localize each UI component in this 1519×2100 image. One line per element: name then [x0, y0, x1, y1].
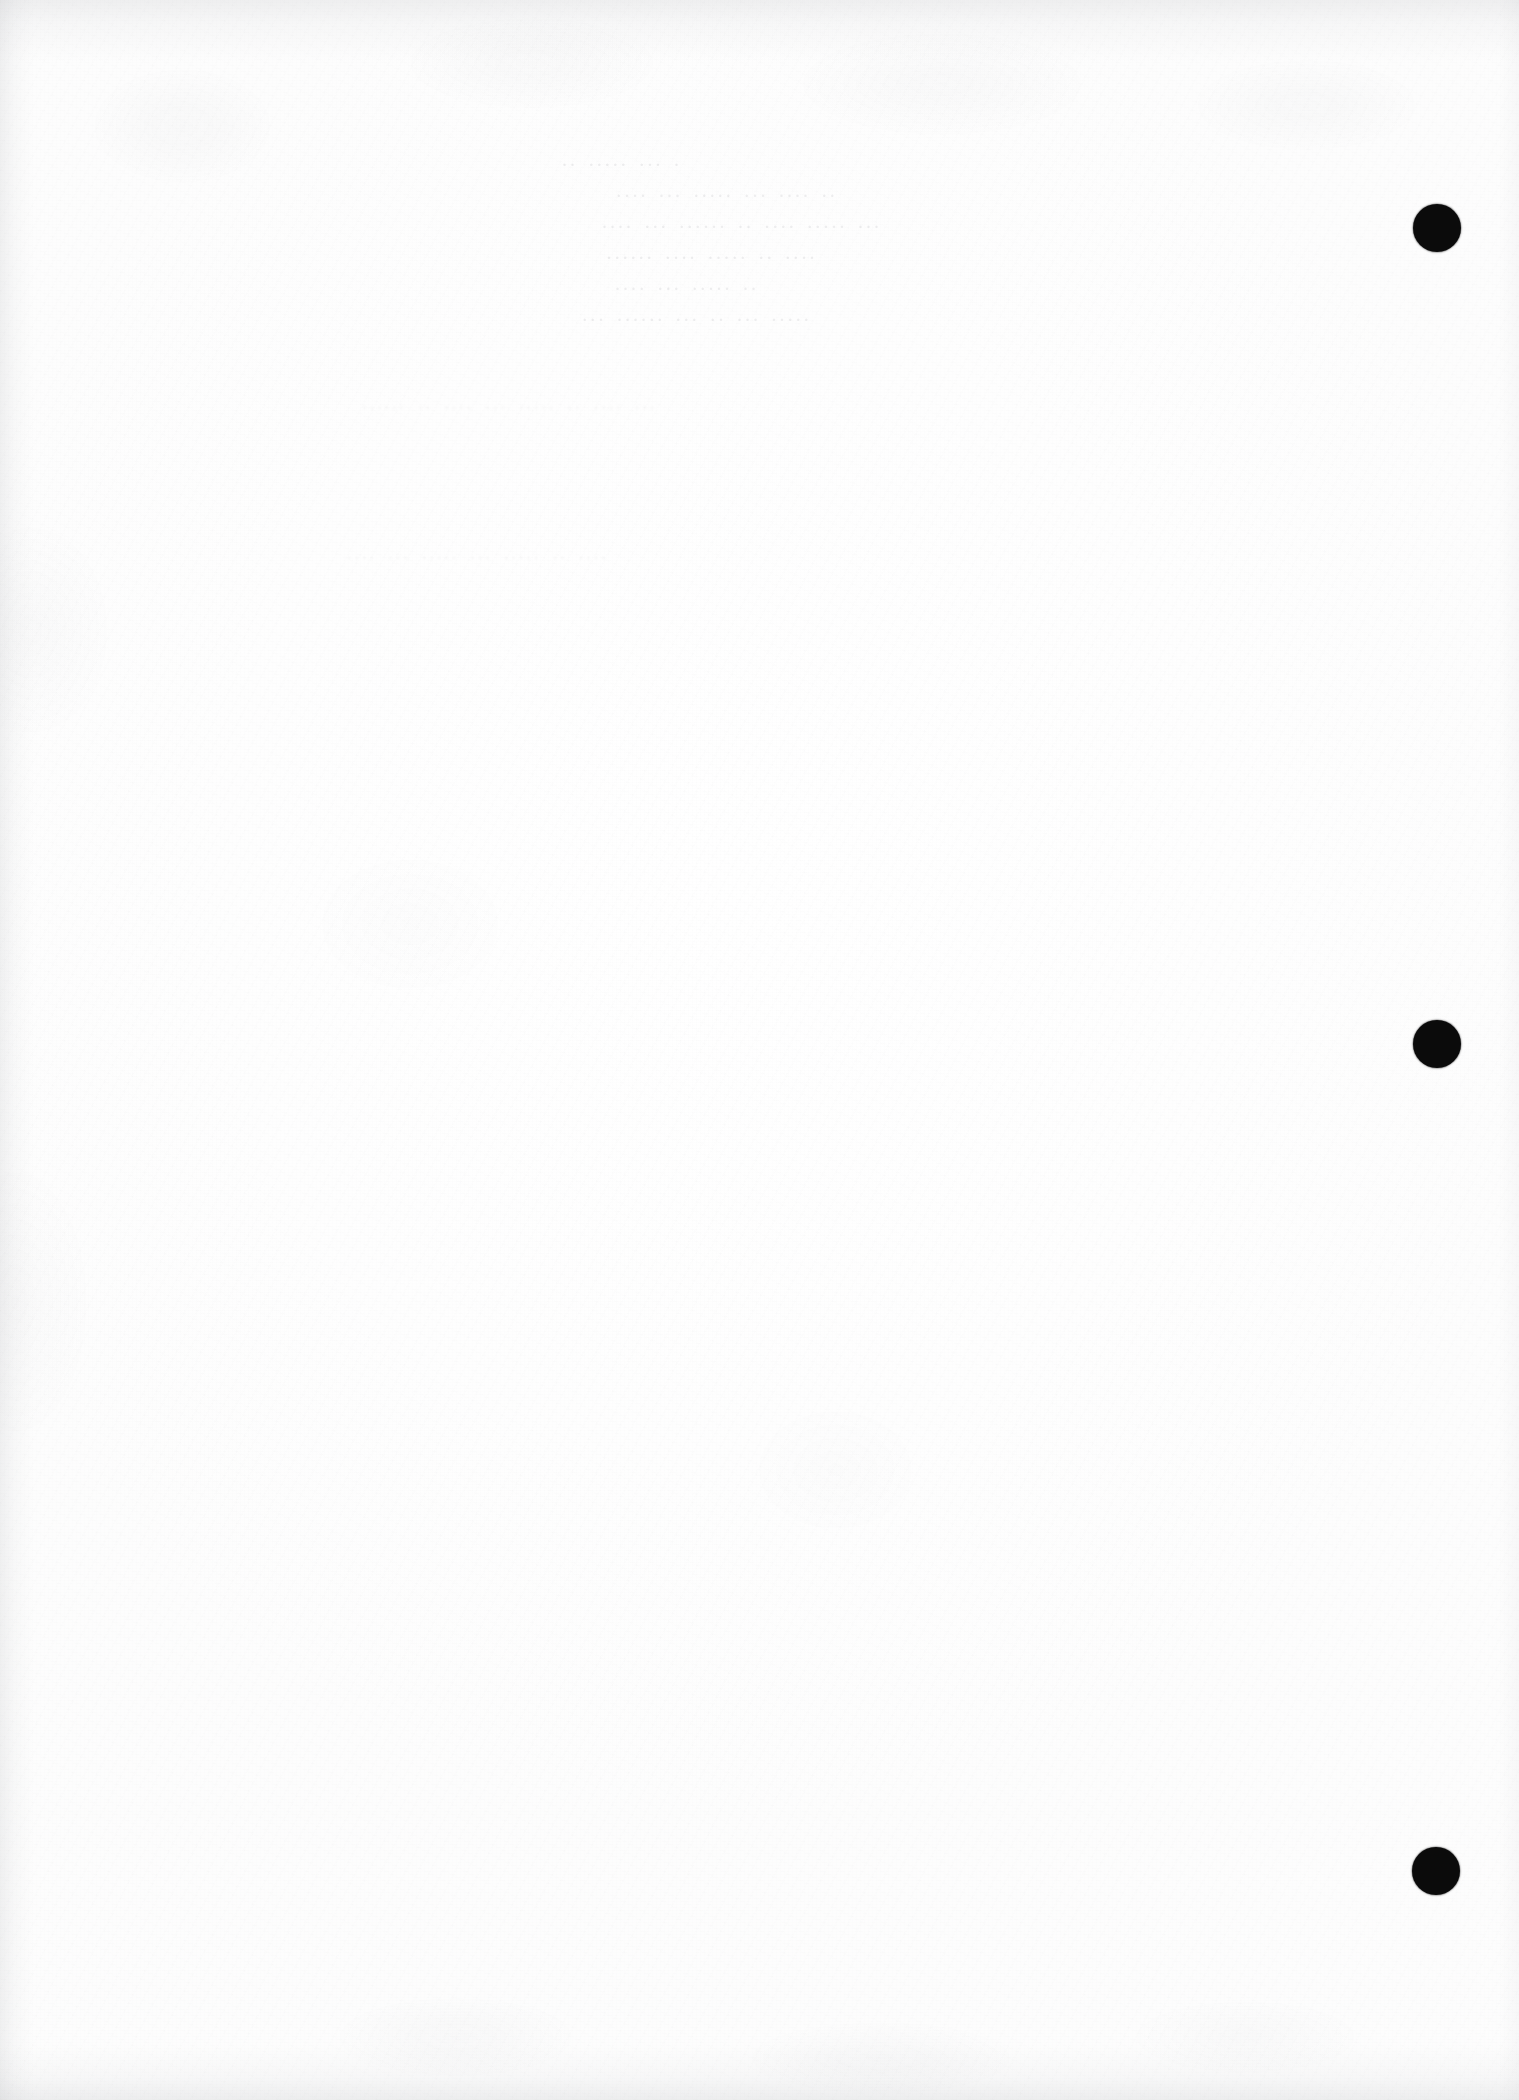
scanned-page: · ··· ····· ·· ·· ···· ··· ····· ··· ···…	[0, 0, 1519, 2100]
punch-hole-top	[1413, 204, 1461, 252]
paper-background	[0, 0, 1519, 2100]
punch-hole-middle	[1413, 1020, 1461, 1068]
punch-hole-bottom	[1412, 1847, 1460, 1895]
